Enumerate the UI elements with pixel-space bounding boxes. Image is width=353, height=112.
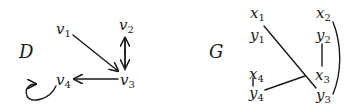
vertex-v1: v1	[56, 22, 71, 39]
arc-v1-v3	[73, 35, 118, 71]
vertex-x1: x1	[250, 6, 265, 23]
edge-x1-y3	[264, 26, 316, 88]
vertex-y3: y3	[316, 88, 331, 105]
edges-layer	[0, 0, 353, 112]
digraph-label: D	[19, 43, 33, 61]
vertex-y2: y2	[316, 28, 331, 45]
vertex-x2: x2	[316, 6, 331, 23]
vertex-x4: x4	[249, 67, 264, 84]
vertex-y4: y4	[249, 86, 264, 103]
vertex-v2: v2	[119, 18, 134, 35]
vertex-v4: v4	[56, 73, 71, 90]
edge-x2-y3	[333, 22, 340, 94]
edge-x3-y4	[265, 76, 305, 90]
graph-label: G	[209, 43, 223, 61]
vertex-v3: v3	[120, 73, 135, 90]
diagram-canvas: D v1 v2 v3 v4 G x1 y1 x2 y2 x3 y3 x4 y4	[0, 0, 353, 112]
loop-v4	[26, 84, 56, 100]
vertex-y1: y1	[250, 28, 265, 45]
vertex-x3: x3	[315, 68, 330, 85]
